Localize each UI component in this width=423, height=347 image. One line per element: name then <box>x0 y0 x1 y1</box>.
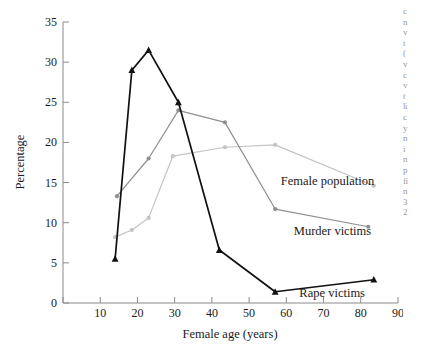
x-tick-label: 80 <box>355 306 367 320</box>
margin-text-line: n <box>403 133 423 144</box>
margin-text-line: p <box>403 165 423 176</box>
margin-text-line: v <box>403 59 423 70</box>
margin-text-line: n <box>403 17 423 28</box>
x-tick-label: 30 <box>169 306 181 320</box>
y-tick-label: 10 <box>45 216 57 230</box>
margin-text-line: c <box>403 70 423 81</box>
page-margin-text: cnvt(vcvtlicyninpfin32 <box>403 6 423 306</box>
margin-text-line: i <box>403 144 423 155</box>
y-axis-title: Percentage <box>13 134 27 189</box>
x-axis-title: Female age (years) <box>182 327 277 341</box>
margin-text-line: c <box>403 6 423 17</box>
margin-text-line: 2 <box>403 207 423 218</box>
margin-text-line: n <box>403 154 423 165</box>
margin-text-line: fi <box>403 176 423 187</box>
data-point-marker <box>216 246 223 252</box>
series-label-female-population: Female population <box>281 174 375 188</box>
series-line <box>115 50 374 292</box>
margin-text-line: t <box>403 91 423 102</box>
line-chart-figure: 05101520253035 102030405060708090 Female… <box>0 0 403 347</box>
y-tick-label: 5 <box>51 256 57 270</box>
series-label-murder-victims: Murder victims <box>294 224 372 238</box>
data-point-marker <box>273 207 277 211</box>
margin-text-line: y <box>403 123 423 134</box>
y-tick-label: 0 <box>51 296 57 310</box>
x-tick-label: 40 <box>206 306 218 320</box>
y-axis-ticks: 05101520253035 <box>45 15 69 310</box>
data-point-marker <box>130 228 134 232</box>
series-layer <box>112 47 378 295</box>
data-point-marker <box>147 156 151 160</box>
x-axis-ticks: 102030405060708090 <box>63 297 403 320</box>
margin-text-line: v <box>403 27 423 38</box>
chart-page: 05101520253035 102030405060708090 Female… <box>0 0 423 347</box>
x-tick-label: 90 <box>392 306 403 320</box>
data-point-marker <box>112 255 119 261</box>
margin-text-line: t <box>403 38 423 49</box>
margin-text-line: c <box>403 112 423 123</box>
data-point-marker <box>223 120 227 124</box>
data-point-marker <box>115 194 119 198</box>
series-line <box>117 110 368 226</box>
x-tick-label: 70 <box>318 306 330 320</box>
data-point-marker <box>223 145 227 149</box>
margin-text-line: n <box>403 186 423 197</box>
y-tick-label: 15 <box>45 176 57 190</box>
series-label-rape-victims: Rape victims <box>299 286 365 300</box>
margin-text-line: v <box>403 80 423 91</box>
data-point-marker <box>171 154 175 158</box>
chart-canvas: 05101520253035 102030405060708090 Female… <box>0 0 403 347</box>
margin-text-line: 3 <box>403 197 423 208</box>
data-point-marker <box>273 143 277 147</box>
margin-text-line: ( <box>403 48 423 59</box>
x-tick-label: 50 <box>243 306 255 320</box>
y-tick-label: 25 <box>45 95 57 109</box>
y-tick-label: 30 <box>45 55 57 69</box>
x-tick-label: 60 <box>280 306 292 320</box>
margin-text-line: li <box>403 101 423 112</box>
y-tick-label: 35 <box>45 15 57 29</box>
data-point-marker <box>147 216 151 220</box>
x-tick-label: 10 <box>94 306 106 320</box>
x-tick-label: 20 <box>131 306 143 320</box>
y-tick-label: 20 <box>45 135 57 149</box>
data-point-marker <box>145 47 152 53</box>
